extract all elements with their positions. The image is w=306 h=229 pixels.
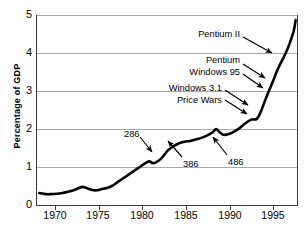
annotation-arrows (140, 37, 272, 157)
arrow-windows-95 (243, 74, 263, 88)
axis-frame (36, 15, 298, 206)
arrow-pentium-ii (243, 37, 272, 53)
arrow-286 (140, 137, 152, 152)
arrow-486 (213, 137, 227, 155)
source-note-partial (4, 222, 224, 229)
chart-plot-area (0, 0, 306, 229)
chart-container: Percentage of GDP 5 4 3 2 1 0 1970 1975 … (0, 0, 306, 229)
gridlines (36, 16, 298, 168)
data-series-line (39, 20, 295, 194)
